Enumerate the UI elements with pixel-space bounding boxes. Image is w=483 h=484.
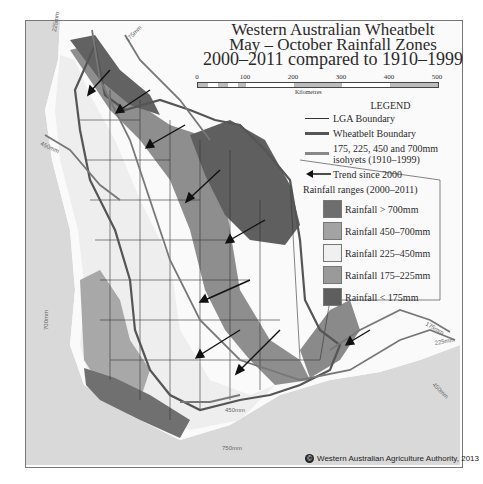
legend-label: LGA Boundary <box>333 113 395 124</box>
legend-label: Rainfall < 175mm <box>345 292 418 303</box>
svg-text:700mm: 700mm <box>43 310 49 330</box>
copyright: © Western Australian Agriculture Authori… <box>305 454 479 463</box>
scale-bar: 0 100 200 300 400 500 Kilometres <box>195 73 445 95</box>
legend-label: 175, 225, 450 and 700mm isohyets (1910–1… <box>333 143 463 165</box>
thick-line-icon <box>303 128 333 138</box>
scale-unit: Kilometres <box>295 89 322 95</box>
legend-label: Rainfall 450–700mm <box>345 226 430 237</box>
legend-range-225-450: Rainfall 225–450mm <box>303 244 468 262</box>
legend-range-gt700: Rainfall > 700mm <box>303 200 468 218</box>
legend-row-wheatbelt: Wheatbelt Boundary <box>303 128 468 139</box>
swatch <box>323 222 342 240</box>
arrow-left-icon <box>303 169 333 179</box>
legend-label: Rainfall > 700mm <box>345 204 418 215</box>
scale-tick: 200 <box>288 73 299 81</box>
copyright-icon: © <box>305 454 314 463</box>
thin-line-icon <box>303 113 333 123</box>
scale-tick: 300 <box>336 73 347 81</box>
legend-range-450-700: Rainfall 450–700mm <box>303 222 468 240</box>
scale-bar-graphic <box>197 82 439 88</box>
rainfall-ranges-title: Rainfall ranges (2000–2011) <box>303 184 468 195</box>
scale-tick: 400 <box>384 73 395 81</box>
legend-row-isohyets: 175, 225, 450 and 700mm isohyets (1910–1… <box>303 143 468 165</box>
legend-label: Wheatbelt Boundary <box>333 128 416 139</box>
scale-tick: 100 <box>240 73 251 81</box>
legend-row-trend: Trend since 2000 <box>303 169 468 180</box>
scale-tick: 500 <box>432 73 443 81</box>
legend-heading: LEGEND <box>313 100 468 111</box>
swatch <box>323 244 342 262</box>
isohyet-line-icon <box>303 143 333 165</box>
scale-tick: 0 <box>195 73 199 81</box>
swatch <box>323 288 342 306</box>
copyright-text: Western Australian Agriculture Authority… <box>317 454 479 463</box>
legend-range-lt175: Rainfall < 175mm <box>303 288 468 306</box>
legend: LEGEND LGA Boundary Wheatbelt Boundary 1… <box>303 100 468 310</box>
title-line-3: 2000–2011 compared to 1910–1999 <box>198 52 468 67</box>
legend-range-175-225: Rainfall 175–225mm <box>303 266 468 284</box>
legend-label: Rainfall 175–225mm <box>345 270 430 281</box>
swatch <box>323 200 342 218</box>
legend-label: Rainfall 225–450mm <box>345 248 430 259</box>
svg-text:750mm: 750mm <box>222 445 242 451</box>
svg-text:450mm: 450mm <box>225 407 245 413</box>
legend-row-lga: LGA Boundary <box>303 113 468 124</box>
legend-label: Trend since 2000 <box>333 169 402 180</box>
map-title: Western Australian Wheatbelt May – Octob… <box>198 22 468 67</box>
swatch <box>323 266 342 284</box>
